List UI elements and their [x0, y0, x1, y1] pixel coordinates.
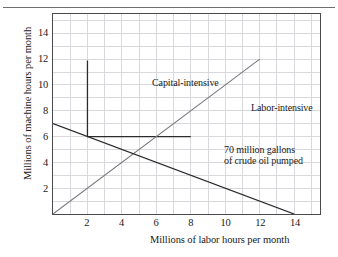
x-tick-2: 2 — [76, 217, 98, 229]
crude-oil-line-2: of crude oil pumped — [224, 155, 303, 166]
y-tick-2: 2 — [30, 184, 48, 195]
y-tick-4: 4 — [30, 158, 48, 169]
crude-oil-line-1: 70 million gallons — [224, 144, 295, 155]
x-axis-tick-labels: 2 4 6 8 10 12 14 — [52, 217, 321, 233]
capital-intensive-label: Capital-intensive — [152, 77, 219, 89]
x-tick-6: 6 — [145, 217, 167, 229]
y-tick-12: 12 — [30, 54, 48, 65]
x-tick-14: 14 — [284, 217, 306, 229]
plot-area: Capital-intensive Labor-intensive 70 mil… — [52, 13, 321, 215]
x-tick-4: 4 — [110, 217, 132, 229]
x-axis-title: Millions of labor hours per month — [150, 234, 289, 246]
y-axis-title: Millions of machine hours per month — [22, 14, 33, 194]
labor-intensive-label: Labor-intensive — [251, 102, 313, 114]
top-divider-rule — [3, 7, 335, 8]
x-tick-10: 10 — [215, 217, 237, 229]
y-tick-8: 8 — [30, 106, 48, 117]
y-tick-14: 14 — [30, 28, 48, 39]
x-tick-8: 8 — [180, 217, 202, 229]
x-tick-12: 12 — [249, 217, 271, 229]
chart-figure: 14 12 10 8 6 4 2 Millions of machine hou… — [0, 0, 338, 257]
y-tick-6: 6 — [30, 132, 48, 143]
plot-canvas — [53, 14, 320, 214]
crude-oil-annotation: 70 million gallons of crude oil pumped — [224, 144, 328, 166]
y-tick-10: 10 — [30, 80, 48, 91]
